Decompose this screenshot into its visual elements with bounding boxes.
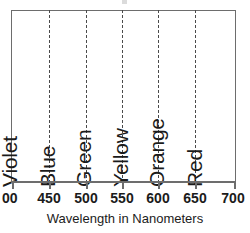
x-tick-600 [158, 182, 160, 189]
x-tick-500 [86, 182, 88, 189]
cropped-title-artifact [122, 0, 127, 4]
x-tick-label-450: 450 [37, 190, 60, 206]
x-tick-label-600: 600 [146, 190, 169, 206]
x-tick-label-500: 500 [74, 190, 97, 206]
x-tick-label-550: 550 [110, 190, 133, 206]
x-tick-label-650: 650 [183, 190, 206, 206]
band-label-violet: Violet [0, 136, 20, 187]
spectrum-chart: Violet Blue Green Yellow Orange Red 00 4… [0, 0, 250, 233]
x-tick-label-400: 00 [2, 190, 18, 206]
band-label-orange: Orange [146, 118, 167, 187]
x-tick-450 [49, 182, 51, 189]
x-axis-title: Wavelength in Nanometers [0, 211, 250, 226]
band-label-green: Green [73, 130, 94, 187]
x-tick-700 [234, 182, 236, 189]
x-tick-label-700: 700 [221, 190, 244, 206]
x-tick-650 [195, 182, 197, 189]
x-tick-550 [122, 182, 124, 189]
band-label-yellow: Yellow [110, 128, 131, 187]
x-tick-400 [12, 182, 14, 189]
